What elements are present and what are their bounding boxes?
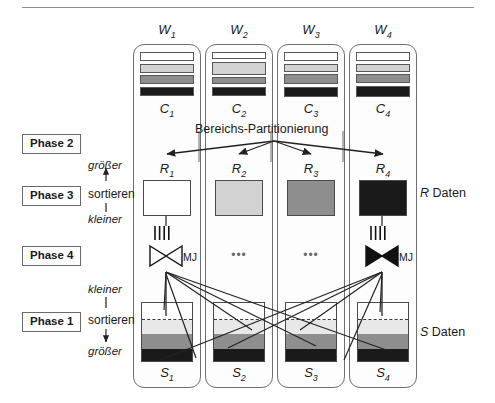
- r-label-w1: R1: [133, 161, 201, 179]
- sort-verb-sort-s: sortieren: [88, 313, 135, 327]
- chunk-stack-w4: [356, 52, 410, 99]
- chunk-label-w3: C3: [277, 101, 345, 119]
- chunk-stripe: [356, 64, 410, 72]
- worker-label-w4: W4: [349, 22, 417, 40]
- s-block-w1[interactable]: [141, 302, 193, 362]
- s-label-w4: S4: [349, 365, 417, 383]
- chunk-stripe: [356, 74, 410, 83]
- chunk-stripe: [284, 87, 338, 97]
- ellipsis-w2: •••: [205, 248, 273, 262]
- merge-join-caption-w1: MJ: [183, 251, 197, 263]
- sort-upper-word-sort-r: größer: [88, 159, 122, 171]
- s-band: [214, 334, 264, 349]
- chunk-label-w2: C2: [205, 101, 273, 119]
- s-band: [214, 320, 264, 334]
- r-block-w2[interactable]: [215, 180, 263, 216]
- phase-box-phase-1[interactable]: Phase 1: [22, 312, 81, 332]
- chunk-stripe: [212, 87, 266, 96]
- s-band: [286, 334, 336, 349]
- chunk-stripe: [284, 52, 338, 61]
- r-block-w1[interactable]: [143, 180, 191, 216]
- chunk-stripe: [284, 64, 338, 72]
- ellipsis-w3: •••: [277, 248, 345, 262]
- sort-lower-word-sort-s: größer: [88, 345, 122, 357]
- s-band: [142, 349, 192, 362]
- r-label-w4: R4: [349, 161, 417, 179]
- diagram-canvas: W1C1R1MJS1W2C2R2•••S2W3C3R3•••S3W4C4R4MJ…: [0, 0, 495, 403]
- s-block-w4[interactable]: [357, 302, 409, 362]
- s-band: [358, 320, 408, 334]
- worker-label-w2: W2: [205, 22, 273, 40]
- sort-verb-sort-r: sortieren: [88, 187, 135, 201]
- s-band: [286, 320, 336, 334]
- merge-join-caption-w4: MJ: [399, 251, 413, 263]
- r-block-w3[interactable]: [287, 180, 335, 216]
- r-label-w2: R2: [205, 161, 273, 179]
- s-band: [214, 303, 264, 319]
- sort-lower-word-sort-r: kleiner: [88, 213, 122, 225]
- chunk-stack-w1: [140, 52, 194, 98]
- s-band: [142, 320, 192, 334]
- chunk-stripe: [140, 75, 194, 84]
- chunk-stripe: [140, 64, 194, 73]
- r-block-w4[interactable]: [359, 180, 407, 216]
- phase-box-phase-4[interactable]: Phase 4: [22, 246, 81, 266]
- worker-label-w3: W3: [277, 22, 345, 40]
- chunk-stripe: [212, 62, 266, 75]
- s-band: [358, 303, 408, 319]
- s-band: [142, 303, 192, 319]
- chunk-stripe: [356, 52, 410, 61]
- worker-label-w1: W1: [133, 22, 201, 40]
- bereichs-partitionierung-label: Bereichs-Partitionierung: [195, 122, 328, 136]
- sort-upper-word-sort-s: kleiner: [88, 283, 122, 295]
- s-band: [214, 349, 264, 362]
- chunk-stripe: [212, 77, 266, 84]
- r-label-w3: R3: [277, 161, 345, 179]
- side-label-s-daten: S Daten: [420, 325, 465, 339]
- s-block-w2[interactable]: [213, 302, 265, 362]
- phase-box-phase-2[interactable]: Phase 2: [22, 134, 81, 154]
- top-rule: [22, 7, 474, 8]
- side-label-r-daten: R Daten: [420, 186, 466, 200]
- s-label-w1: S1: [133, 365, 201, 383]
- chunk-stack-w2: [212, 52, 266, 98]
- s-label-w3: S3: [277, 365, 345, 383]
- chunk-label-w1: C1: [133, 101, 201, 119]
- chunk-stripe: [212, 52, 266, 59]
- s-band: [358, 349, 408, 362]
- chunk-stripe: [140, 52, 194, 61]
- s-label-w2: S2: [205, 365, 273, 383]
- s-block-w3[interactable]: [285, 302, 337, 362]
- chunk-stripe: [140, 87, 194, 96]
- s-band: [358, 334, 408, 349]
- phase-box-phase-3[interactable]: Phase 3: [22, 186, 81, 206]
- chunk-stripe: [356, 86, 410, 97]
- chunk-stack-w3: [284, 52, 338, 99]
- chunk-label-w4: C4: [349, 101, 417, 119]
- s-band: [286, 303, 336, 319]
- chunk-stripe: [284, 74, 338, 84]
- s-band: [286, 349, 336, 362]
- s-band: [142, 334, 192, 349]
